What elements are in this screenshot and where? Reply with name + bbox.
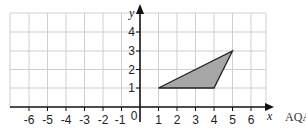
- x-tick-label: -2: [98, 113, 109, 127]
- x-tick-label: 5: [229, 113, 236, 127]
- x-tick-label: 4: [211, 113, 218, 127]
- y-tick-label: 2: [128, 63, 135, 77]
- x-axis: [10, 103, 274, 111]
- source-credit: AQA: [285, 110, 306, 124]
- x-tick-label: 6: [248, 113, 255, 127]
- coordinate-grid: -6 -5 -4 -3 -2 -1 0 1 2 3 4 5 6 1 2 3 4 …: [0, 0, 306, 132]
- x-tick-label: 2: [174, 113, 181, 127]
- x-tick-label: -1: [115, 113, 126, 127]
- x-tick-label: 3: [192, 113, 199, 127]
- x-tick-label: -6: [24, 113, 35, 127]
- y-tick-labels: 1 2 3 4: [128, 25, 135, 95]
- x-tick-labels: -6 -5 -4 -3 -2 -1 0 1 2 3 4 5 6: [24, 109, 255, 127]
- y-axis: [136, 4, 144, 122]
- x-axis-label: x: [266, 109, 273, 123]
- y-axis-label: y: [128, 6, 135, 20]
- y-tick-label: 4: [128, 25, 135, 39]
- x-tick-label: -3: [79, 113, 90, 127]
- y-tick-label: 3: [128, 44, 135, 58]
- x-tick-label: -5: [42, 113, 53, 127]
- origin-label: 0: [131, 109, 138, 123]
- x-tick-label: 1: [155, 113, 162, 127]
- y-tick-label: 1: [128, 81, 135, 95]
- x-tick-label: -4: [61, 113, 72, 127]
- y-axis-arrow-icon: [136, 4, 144, 14]
